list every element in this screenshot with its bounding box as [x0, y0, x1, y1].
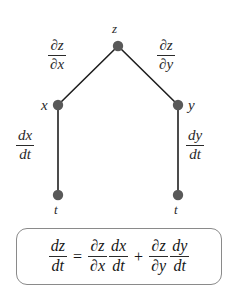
- fraction-dx-dt: dx dt: [16, 128, 34, 162]
- fraction-denominator: dt: [170, 257, 189, 275]
- equals-sign: =: [68, 248, 87, 266]
- fraction-numerator: dy: [170, 238, 189, 257]
- fraction-denominator: dt: [16, 146, 34, 163]
- fraction-denominator: dt: [49, 257, 67, 275]
- formula-term-1: ∂z ∂x dx dt: [87, 238, 129, 274]
- edge-label-partial-z-partial-y: ∂z ∂y: [157, 38, 175, 72]
- fraction-dx-dt: dx dt: [109, 238, 128, 274]
- formula-box: dz dt = ∂z ∂x dx dt + ∂z ∂y: [16, 228, 222, 285]
- fraction-denominator: ∂y: [157, 56, 175, 73]
- edge-label-dx-dt: dx dt: [16, 128, 34, 162]
- node-y: [173, 100, 183, 110]
- fraction-numerator: ∂z: [149, 238, 168, 257]
- edge-z-to-x: [58, 46, 118, 105]
- fraction-dy-dt: dy dt: [170, 238, 189, 274]
- fraction-dy-dt: dy dt: [186, 128, 204, 162]
- fraction-denominator: ∂y: [149, 257, 168, 275]
- node-z: [113, 41, 123, 51]
- fraction-numerator: ∂z: [48, 38, 66, 56]
- fraction-partial-z-partial-x: ∂z ∂x: [88, 238, 107, 274]
- fraction-denominator: ∂x: [48, 56, 66, 73]
- fraction-numerator: dx: [109, 238, 128, 257]
- fraction-numerator: ∂z: [157, 38, 175, 56]
- node-x: [53, 100, 63, 110]
- formula-lhs-dz-dt: dz dt: [49, 238, 67, 274]
- node-label-z: z: [112, 22, 117, 35]
- fraction-partial-z-partial-y: ∂z ∂y: [149, 238, 168, 274]
- plus-sign: +: [129, 248, 148, 266]
- formula-term-2: ∂z ∂y dy dt: [148, 238, 190, 274]
- fraction-numerator: dx: [16, 128, 34, 146]
- fraction-numerator: dy: [186, 128, 204, 146]
- chain-rule-figure: z x y t t ∂z ∂x ∂z ∂y dx dt dy dt dz: [0, 0, 239, 296]
- fraction-numerator: dz: [49, 238, 67, 257]
- fraction-dz-dy: ∂z ∂y: [157, 38, 175, 72]
- edge-label-partial-z-partial-x: ∂z ∂x: [48, 38, 66, 72]
- node-label-t-left: t: [54, 203, 58, 216]
- node-label-x: x: [41, 98, 48, 113]
- fraction-dz-dx: ∂z ∂x: [48, 38, 66, 72]
- fraction-denominator: ∂x: [88, 257, 107, 275]
- node-t-left: [53, 190, 63, 200]
- node-label-t-right: t: [174, 203, 178, 216]
- fraction-denominator: dt: [109, 257, 128, 275]
- node-label-y: y: [188, 98, 195, 113]
- fraction-denominator: dt: [186, 146, 204, 163]
- fraction-numerator: ∂z: [88, 238, 107, 257]
- chain-rule-equation: dz dt = ∂z ∂x dx dt + ∂z ∂y: [48, 238, 191, 274]
- node-t-right: [173, 190, 183, 200]
- edge-label-dy-dt: dy dt: [186, 128, 204, 162]
